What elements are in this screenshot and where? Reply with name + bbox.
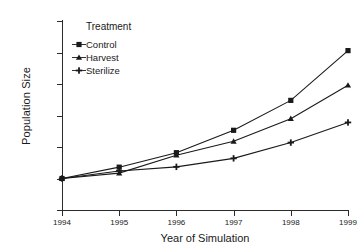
y-axis-title: Population Size <box>20 36 32 176</box>
data-point-control <box>288 98 293 103</box>
x-tick-label: 1997 <box>214 218 254 227</box>
legend-label: Sterilize <box>86 66 120 76</box>
x-tick-label: 1996 <box>156 218 196 227</box>
x-axis-line <box>62 210 349 211</box>
legend-item-control: Control <box>72 38 131 51</box>
data-point-control <box>345 48 350 53</box>
x-tick <box>176 211 177 216</box>
data-point-control <box>231 128 236 133</box>
legend-label: Harvest <box>86 53 119 63</box>
x-tick <box>348 211 349 216</box>
data-point-sterilize <box>345 119 351 125</box>
x-tick-label: 1998 <box>271 218 311 227</box>
x-tick-label: 1999 <box>328 218 362 227</box>
x-tick <box>119 211 120 216</box>
x-tick <box>291 211 292 216</box>
x-tick-label: 1995 <box>99 218 139 227</box>
square-marker-icon <box>72 38 86 51</box>
series-line-harvest <box>62 85 348 178</box>
x-tick-label: 1994 <box>42 218 82 227</box>
x-axis-title: Year of Simulation <box>62 232 348 244</box>
data-point-sterilize <box>173 164 179 170</box>
legend-entries: ControlHarvestSterilize <box>72 38 131 77</box>
data-point-sterilize <box>288 139 294 145</box>
legend-title: Treatment <box>86 22 131 32</box>
x-tick <box>234 211 235 216</box>
legend-item-sterilize: Sterilize <box>72 64 131 77</box>
legend: Treatment ControlHarvestSterilize <box>72 22 131 77</box>
data-point-harvest <box>288 116 294 121</box>
legend-item-harvest: Harvest <box>72 51 131 64</box>
x-tick <box>62 211 63 216</box>
data-point-sterilize <box>230 155 236 161</box>
data-point-harvest <box>345 82 351 87</box>
legend-label: Control <box>86 40 117 50</box>
triangle-marker-icon <box>72 51 86 64</box>
plus-marker-icon <box>72 64 86 77</box>
